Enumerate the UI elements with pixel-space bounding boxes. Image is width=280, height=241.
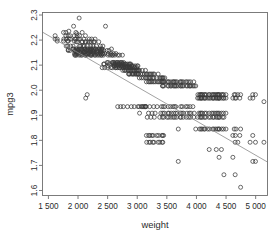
data-point <box>262 140 266 144</box>
data-point <box>121 105 125 109</box>
data-point <box>253 140 257 144</box>
data-point <box>80 30 84 34</box>
y-tick-label: 2.3 <box>30 9 39 21</box>
data-point <box>238 133 242 137</box>
y-tick-label: 1.9 <box>30 109 39 121</box>
data-point <box>224 127 228 131</box>
scatter-plot-figure: 1 5002 0002 5003 0003 5004 0004 5005 000… <box>0 0 280 241</box>
data-point <box>194 127 198 131</box>
x-tick-label: 4 000 <box>186 202 207 211</box>
x-tick-label: 1 500 <box>38 202 59 211</box>
x-axis-title: weight <box>140 219 168 230</box>
x-tick-label: 5 000 <box>245 202 266 211</box>
data-point <box>120 53 124 57</box>
x-tick-label: 2 500 <box>97 202 118 211</box>
x-axis-ticks <box>48 196 255 200</box>
data-point <box>262 100 266 104</box>
data-point <box>233 133 237 137</box>
data-point <box>72 24 76 28</box>
y-tick-label: 2.0 <box>30 84 39 96</box>
data-point <box>125 105 129 109</box>
data-point <box>248 140 252 144</box>
data-point <box>176 127 180 131</box>
data-point <box>253 93 257 97</box>
data-point <box>97 40 101 44</box>
data-point <box>83 34 87 38</box>
data-point <box>233 173 237 177</box>
data-point <box>156 72 160 76</box>
x-tick-label: 3 000 <box>127 202 148 211</box>
data-point <box>207 148 211 152</box>
data-point <box>77 16 81 20</box>
y-axis-tick-labels: 1.61.71.81.92.02.12.22.3 <box>30 9 39 196</box>
data-point <box>138 111 142 115</box>
data-points-layer <box>53 16 266 189</box>
data-point <box>85 93 89 97</box>
y-tick-label: 2.2 <box>30 34 39 46</box>
data-point <box>251 133 255 137</box>
y-tick-label: 1.8 <box>30 134 39 146</box>
y-tick-label: 1.6 <box>30 184 39 196</box>
x-tick-label: 4 500 <box>216 202 237 211</box>
x-tick-label: 2 000 <box>68 202 89 211</box>
data-point <box>239 127 243 131</box>
data-point <box>104 24 108 28</box>
y-axis-title: mpg3 <box>4 92 15 115</box>
y-tick-label: 1.7 <box>30 159 39 171</box>
data-point <box>176 159 180 163</box>
x-axis-tick-labels: 1 5002 0002 5003 0003 5004 0004 5005 000 <box>38 202 266 211</box>
data-point <box>217 155 221 159</box>
y-tick-label: 2.1 <box>30 59 39 71</box>
data-point <box>219 148 223 152</box>
data-point <box>224 111 228 115</box>
plot-canvas: 1 5002 0002 5003 0003 5004 0004 5005 000… <box>0 0 280 241</box>
data-point <box>239 185 243 189</box>
data-point <box>253 159 257 163</box>
data-point <box>191 105 195 109</box>
data-point <box>214 148 218 152</box>
data-point <box>236 140 240 144</box>
data-point <box>231 155 235 159</box>
y-axis-ticks <box>39 15 43 190</box>
x-tick-label: 3 500 <box>157 202 178 211</box>
data-point <box>222 173 226 177</box>
